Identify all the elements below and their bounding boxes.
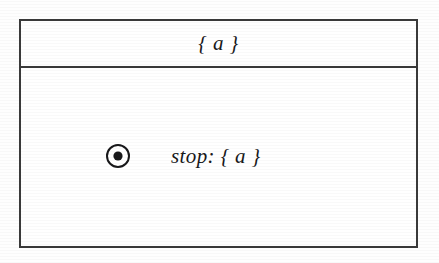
- state-box: { a } stop: { a }: [19, 19, 418, 248]
- scanned-page: { a } stop: { a }: [0, 0, 439, 263]
- internal-transition-row: stop: { a }: [105, 143, 260, 169]
- state-name-label: { a }: [198, 31, 238, 56]
- final-state-icon: [105, 143, 131, 169]
- internal-transition-label: stop: { a }: [171, 144, 260, 169]
- state-name-compartment: { a }: [21, 21, 416, 68]
- state-body-compartment: stop: { a }: [21, 68, 416, 248]
